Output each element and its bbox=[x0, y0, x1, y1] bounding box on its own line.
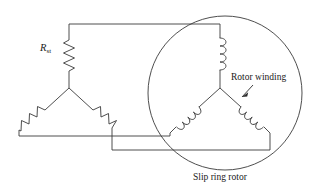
wire-rotor-b-lead bbox=[170, 127, 176, 136]
label-rotor-winding: Rotor winding bbox=[231, 72, 286, 82]
wire-rotor-c-lead bbox=[264, 127, 270, 150]
circuit-diagram-figure: Rst Rotor winding Slip ring rotor bbox=[0, 0, 319, 195]
inductor-rotor-coil-a bbox=[220, 38, 226, 70]
wire-rotor-star-to-c bbox=[220, 88, 241, 107]
inductor-rotor-coil-c bbox=[237, 107, 263, 131]
label-starting-resistance-subscript: st bbox=[46, 47, 51, 55]
inductor-rotor-coil-b-group bbox=[177, 107, 203, 131]
wire-left-star-to-c bbox=[69, 88, 93, 110]
resistor-rst-phase-b bbox=[19, 107, 45, 132]
label-starting-resistance: Rst bbox=[40, 42, 51, 55]
schematic-canvas bbox=[0, 0, 319, 195]
wire-left-star-to-b bbox=[45, 88, 69, 110]
label-slip-ring-rotor: Slip ring rotor bbox=[193, 172, 247, 182]
resistor-rst-phase-c bbox=[93, 107, 117, 129]
resistor-rst-phase-a bbox=[64, 40, 75, 71]
inductor-rotor-coil-b bbox=[177, 107, 203, 131]
inductor-rotor-coil-c-group bbox=[237, 107, 263, 131]
wire-rotor-star-to-b bbox=[199, 88, 220, 107]
